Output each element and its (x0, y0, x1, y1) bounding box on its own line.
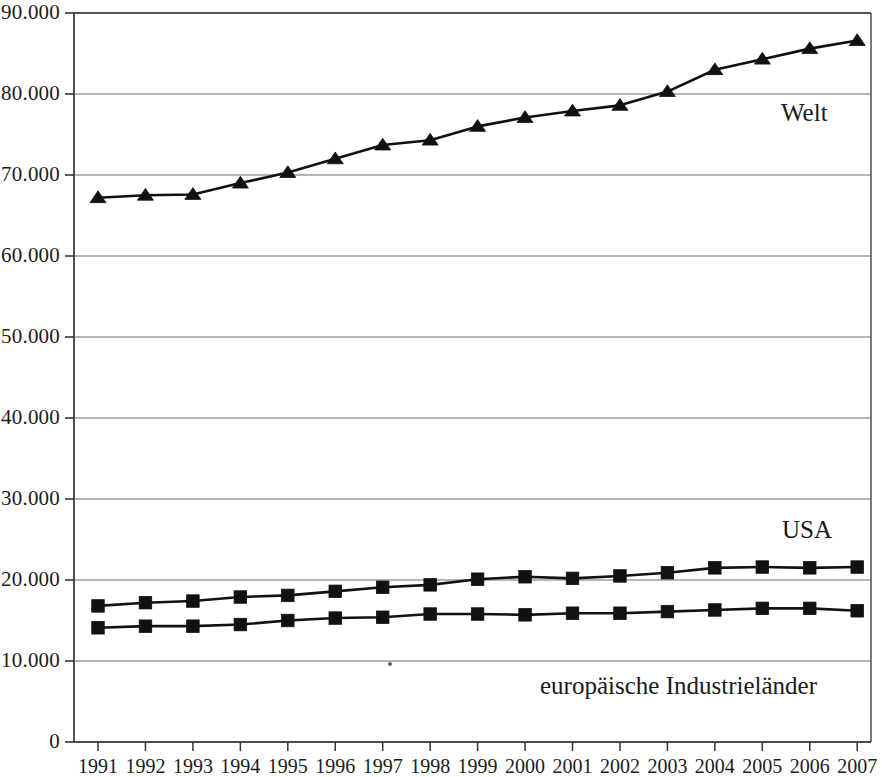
y-axis-tick-label: 60.000 (0, 245, 60, 266)
data-point-marker (424, 579, 437, 592)
data-point-marker (92, 622, 105, 635)
data-point-marker (187, 620, 200, 633)
data-point-marker (329, 585, 342, 598)
y-axis-tick-label: 80.000 (0, 83, 60, 104)
data-point-marker (234, 618, 247, 631)
data-point-marker (804, 562, 817, 575)
data-point-marker (614, 607, 627, 620)
data-point-marker (519, 609, 532, 622)
data-point-marker (851, 605, 864, 618)
data-point-marker (234, 591, 247, 604)
data-point-marker (92, 600, 105, 613)
data-point-marker (566, 607, 579, 620)
data-point-marker (376, 611, 389, 624)
data-point-marker (424, 608, 437, 621)
y-axis-tick-label: 40.000 (0, 407, 60, 428)
data-point-marker (376, 581, 389, 594)
data-point-marker (139, 596, 152, 609)
chart-container: 90.00080.00070.00060.00050.00040.00030.0… (0, 0, 882, 777)
data-point-marker (756, 561, 769, 574)
series-markers (90, 34, 865, 634)
data-point-marker (851, 561, 864, 574)
data-point-marker (519, 571, 532, 584)
x-axis-tick-label: 2007 (829, 756, 882, 776)
y-axis-tick-label: 30.000 (0, 488, 60, 509)
y-axis-tick-label: 10.000 (0, 650, 60, 671)
series-label-welt: Welt (781, 100, 828, 126)
data-point-marker (282, 614, 295, 627)
data-point-marker (849, 34, 865, 46)
y-axis-tick-label: 50.000 (0, 326, 60, 347)
data-point-marker (756, 602, 769, 615)
series-label-europäische: europäische Industrieländer (540, 673, 817, 699)
series-label-usa: USA (782, 517, 832, 543)
data-point-marker (187, 595, 200, 608)
data-point-marker (471, 573, 484, 586)
data-point-marker (709, 604, 722, 617)
y-axis-tick-label: 70.000 (0, 164, 60, 185)
scan-artifact-speck (388, 662, 392, 666)
data-point-marker (139, 620, 152, 633)
data-point-marker (282, 589, 295, 602)
data-point-marker (566, 572, 579, 585)
y-axis-tick-label: 20.000 (0, 569, 60, 590)
data-point-marker (661, 566, 674, 579)
y-axis-tick-label: 0 (0, 731, 60, 752)
data-point-marker (804, 602, 817, 615)
y-axis-tick-label: 90.000 (0, 2, 60, 23)
data-point-marker (614, 570, 627, 583)
data-point-marker (661, 605, 674, 618)
data-point-marker (329, 612, 342, 625)
line-chart-plot (0, 0, 882, 777)
data-point-marker (659, 85, 675, 97)
data-point-marker (709, 562, 722, 575)
data-point-marker (471, 608, 484, 621)
axis-ticks (65, 13, 857, 751)
